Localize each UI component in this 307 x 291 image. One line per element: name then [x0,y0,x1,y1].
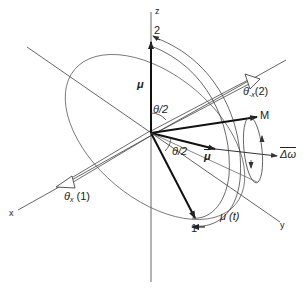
x-axis-label: x [9,209,14,218]
delta-omega-vector [215,149,277,156]
delta-omega-label: Δω [280,149,296,160]
y-axis-label: y [280,221,285,230]
arrow-2-tip [153,36,160,40]
trajectory-band-outer [156,38,241,226]
point-2-label: 2 [154,25,160,36]
mu-bar-label: μ [204,151,211,162]
half-theta-top-label: θ/2 [153,104,168,115]
diagram-canvas [0,0,307,291]
point-1-label: 1 [191,223,197,234]
z-axis-label: z [155,7,160,16]
theta-x-arrowhead [56,176,75,188]
mu-label: μ [137,79,144,90]
M-label: M [260,110,269,121]
theta-minus-x-2-label: θ-x(2) [243,86,268,98]
theta-x-1-label: θx (1) [64,191,90,203]
half-theta-bottom-label: θ/2 [172,146,187,157]
M-vector [151,117,257,133]
mu-t-label: μ (t) [220,211,239,222]
bloch-rotation-diagram: z x y 2 1 μ M μ Δω μ (t) θ/2 θ/2 θ-x(2) … [0,0,307,291]
